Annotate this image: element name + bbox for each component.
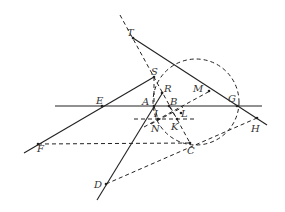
line-FC: [38, 143, 190, 144]
point-label-m: M: [192, 83, 204, 94]
point-label-c: C: [187, 145, 195, 156]
point-r-marker: [161, 92, 164, 95]
point-label-g: G: [228, 93, 236, 104]
dashed-circle: [153, 59, 239, 145]
point-label-r: R: [163, 83, 172, 94]
point-d-marker: [105, 183, 108, 186]
point-h-marker: [256, 117, 259, 120]
point-m-marker: [208, 90, 211, 93]
point-k-marker: [176, 118, 179, 121]
solid-lines: [24, 38, 267, 200]
point-g-marker: [236, 105, 239, 108]
point-label-s: S: [151, 66, 158, 77]
point-label-l: L: [180, 108, 188, 119]
point-markers: [37, 37, 259, 186]
point-c-marker: [189, 142, 192, 145]
circle: [153, 59, 239, 145]
point-label-a: A: [141, 96, 149, 107]
point-label-f: F: [36, 143, 45, 154]
point-a-marker: [153, 105, 156, 108]
diagram-svg: TSRMEABGILNKHFCD: [0, 0, 285, 212]
point-label-n: N: [150, 123, 161, 134]
point-label-h: H: [250, 123, 260, 134]
point-label-t: T: [127, 27, 135, 38]
point-label-e: E: [95, 95, 104, 106]
point-label-d: D: [93, 179, 102, 190]
point-label-i: I: [153, 108, 159, 119]
line-FS: [24, 77, 154, 153]
point-label-k: K: [170, 121, 179, 132]
point-label-b: B: [169, 96, 177, 107]
geometry-diagram: TSRMEABGILNKHFCD: [0, 0, 285, 212]
